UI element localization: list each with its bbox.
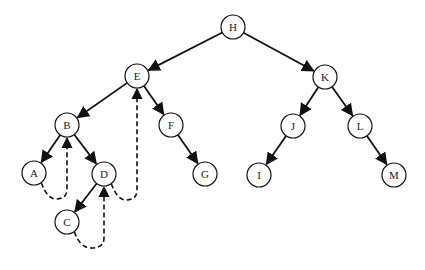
edge-E-B <box>78 83 128 118</box>
node-J: J <box>281 114 305 138</box>
node-label: H <box>229 21 237 33</box>
node-label: C <box>63 216 70 228</box>
node-M: M <box>382 163 406 187</box>
edge-J-I <box>266 136 286 164</box>
node-label: D <box>100 168 108 180</box>
edge-F-G <box>178 135 198 163</box>
edge-B-D <box>74 135 96 164</box>
node-D: D <box>92 162 116 186</box>
edge-K-J <box>300 87 318 115</box>
node-label: F <box>168 119 174 131</box>
edge-E-F <box>144 86 164 114</box>
node-label: G <box>201 168 209 180</box>
edge-H-E <box>149 32 223 70</box>
node-label: L <box>357 120 364 132</box>
tree-nodes: HEKBFJLADGIMC <box>22 15 406 234</box>
node-H: H <box>221 15 245 39</box>
edge-L-M <box>367 136 387 164</box>
node-label: I <box>257 169 261 181</box>
node-I: I <box>247 163 271 187</box>
node-label: J <box>291 120 296 132</box>
node-label: E <box>134 70 141 82</box>
node-label: K <box>321 71 329 83</box>
node-K: K <box>313 65 337 89</box>
thread-D-E <box>111 89 137 200</box>
edge-B-A <box>41 135 60 162</box>
node-label: M <box>389 169 399 181</box>
node-label: A <box>30 167 38 179</box>
node-E: E <box>125 64 149 88</box>
tree-edges <box>41 32 386 211</box>
node-B: B <box>55 113 79 137</box>
node-label: B <box>63 119 70 131</box>
edge-H-K <box>244 33 314 71</box>
edge-K-L <box>332 87 352 116</box>
node-A: A <box>22 161 46 185</box>
node-L: L <box>348 114 372 138</box>
tree-diagram: HEKBFJLADGIMC <box>0 0 425 270</box>
node-F: F <box>159 113 183 137</box>
edge-D-C <box>75 184 97 212</box>
node-C: C <box>55 210 79 234</box>
node-G: G <box>193 162 217 186</box>
